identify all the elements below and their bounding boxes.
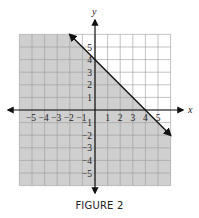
y-tick-label: −2 [82,131,92,141]
figure-caption: FIGURE 2 [0,200,199,211]
x-tick-label: −4 [39,113,49,123]
x-tick-label: −2 [64,113,74,123]
y-tick-label: 4 [87,55,92,65]
x-tick-label: −5 [26,113,36,123]
y-axis-label: y [91,6,97,17]
y-tick-label: −3 [82,143,92,153]
y-tick-label: 3 [87,68,92,78]
y-tick-label: −4 [82,156,92,166]
x-axis-label: x [187,104,193,115]
y-tick-label: 2 [87,80,92,90]
y-tick-label: −1 [82,118,92,128]
y-tick-label: 5 [87,43,92,53]
x-tick-label: 4 [143,113,148,123]
y-tick-label: 1 [87,93,92,103]
x-tick-label: 1 [105,113,110,123]
x-tick-label: −3 [51,113,61,123]
coordinate-plane-figure: xy −5−4−3−2−112345−5−4−3−2−112345 [0,0,199,218]
y-tick-label: −5 [82,169,92,179]
x-tick-label: 5 [156,113,161,123]
x-tick-label: 3 [130,113,135,123]
x-tick-label: 2 [118,113,123,123]
